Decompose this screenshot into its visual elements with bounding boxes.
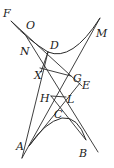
label-E: E — [81, 79, 90, 92]
label-A: A — [15, 140, 24, 153]
label-B: B — [78, 147, 87, 160]
label-X: X — [33, 69, 43, 82]
label-F: F — [2, 7, 11, 20]
label-H: H — [39, 92, 50, 105]
label-C: C — [54, 108, 63, 121]
label-D: D — [49, 39, 59, 52]
label-G: G — [73, 72, 82, 85]
label-L: L — [66, 93, 74, 106]
label-M: M — [95, 27, 108, 40]
label-O: O — [26, 19, 35, 32]
line-D-A — [22, 52, 48, 158]
geometry-diagram: F O D M N X G E H L C A B — [0, 0, 114, 168]
lower-curve — [29, 118, 86, 146]
label-N: N — [19, 45, 30, 58]
